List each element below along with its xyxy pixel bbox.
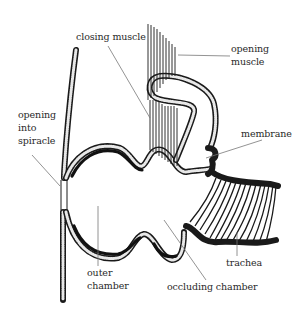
- label-opening-spiracle-line3: spiracle: [18, 134, 56, 147]
- lower-chamber-wall: [66, 212, 184, 260]
- label-opening-muscle-line1: opening: [231, 42, 269, 55]
- label-outer-chamber-line1: outer: [87, 266, 129, 279]
- label-opening-spiracle-line1: opening: [18, 108, 56, 121]
- label-membrane: membrane: [241, 127, 292, 140]
- label-occluding-chamber: occluding chamber: [167, 280, 258, 293]
- trachea-tube: [186, 172, 278, 244]
- occluding-lever: [150, 76, 216, 174]
- label-opening-into-spiracle: opening into spiracle: [18, 108, 56, 147]
- label-opening-muscle: opening muscle: [231, 42, 269, 68]
- label-closing-muscle: closing muscle: [76, 30, 146, 43]
- label-opening-spiracle-line2: into: [18, 121, 56, 134]
- label-outer-chamber: outer chamber: [87, 266, 129, 292]
- label-outer-chamber-line2: chamber: [87, 279, 129, 292]
- upper-chamber-wall: [66, 146, 212, 178]
- label-opening-muscle-line2: muscle: [231, 55, 269, 68]
- label-trachea: trachea: [226, 256, 262, 269]
